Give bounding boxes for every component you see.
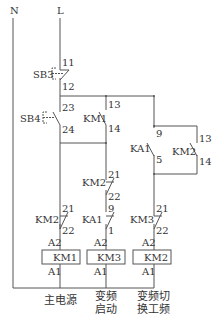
svg-text:24: 24 [62, 124, 75, 135]
km1-hold-label: KM1 [83, 113, 107, 124]
svg-text:KM2: KM2 [144, 252, 168, 263]
ka1-mid-label: KA1 [82, 214, 103, 225]
svg-text:A1: A1 [141, 266, 156, 277]
sb4-label: SB4 [20, 113, 41, 124]
svg-text:9: 9 [156, 128, 162, 139]
coil-km3: A2 KM3 A1 变频 启动 [87, 237, 125, 316]
km2-hold-contact: 13 KM2 14 [172, 133, 212, 174]
km3-interlock-label: KM3 [130, 214, 154, 225]
coil-km2: A2 KM2 A1 变频切 换工频 [133, 237, 171, 316]
km1-hold-contact: 13 KM1 14 [83, 99, 121, 143]
svg-text:12: 12 [62, 81, 75, 92]
live-label: L [57, 5, 64, 16]
svg-text:A2: A2 [93, 237, 108, 248]
svg-text:13: 13 [199, 133, 212, 144]
svg-text:14: 14 [108, 123, 121, 134]
svg-text:A1: A1 [93, 266, 108, 277]
sb4-start-button: 23 SB4 24 [20, 96, 75, 143]
sb3-stop-button: 11 SB3 12 [33, 57, 75, 96]
coil-km2-caption-2: 换工频 [137, 302, 170, 316]
svg-text:22: 22 [156, 225, 169, 236]
svg-text:23: 23 [62, 102, 75, 113]
svg-text:5: 5 [156, 154, 162, 165]
coil-km1-caption: 主电源 [44, 293, 77, 307]
coil-km3-caption-2: 启动 [95, 303, 117, 316]
svg-text:A1: A1 [47, 266, 62, 277]
svg-text:13: 13 [108, 99, 121, 110]
svg-text:KM1: KM1 [53, 252, 77, 263]
ka1-contact-right: 9 KA1 5 [130, 128, 162, 174]
svg-text:KM3: KM3 [97, 252, 121, 263]
km2-hold-label: KM2 [172, 146, 196, 157]
neutral-label: N [10, 5, 19, 16]
svg-text:A2: A2 [141, 237, 156, 248]
km2-interlock-mid-label: KM2 [82, 177, 106, 188]
control-circuit-diagram: N L 11 SB3 12 23 SB4 24 13 KM1 14 [0, 0, 218, 320]
svg-text:11: 11 [62, 57, 75, 68]
svg-text:22: 22 [108, 191, 121, 202]
coil-km3-caption-1: 变频 [95, 289, 117, 303]
coil-km1: A2 KM1 A1 主电源 [42, 237, 80, 307]
coil-km2-caption-1: 变频切 [137, 289, 170, 303]
ka1-right-label: KA1 [130, 143, 151, 154]
svg-text:14: 14 [199, 156, 212, 167]
svg-text:1: 1 [108, 225, 114, 236]
svg-text:22: 22 [62, 225, 75, 236]
sb3-label: SB3 [33, 69, 54, 80]
km2-interlock-left-label: KM2 [35, 214, 59, 225]
svg-text:A2: A2 [47, 237, 62, 248]
km2-interlock-mid: 21 KM2 22 [82, 169, 121, 212]
